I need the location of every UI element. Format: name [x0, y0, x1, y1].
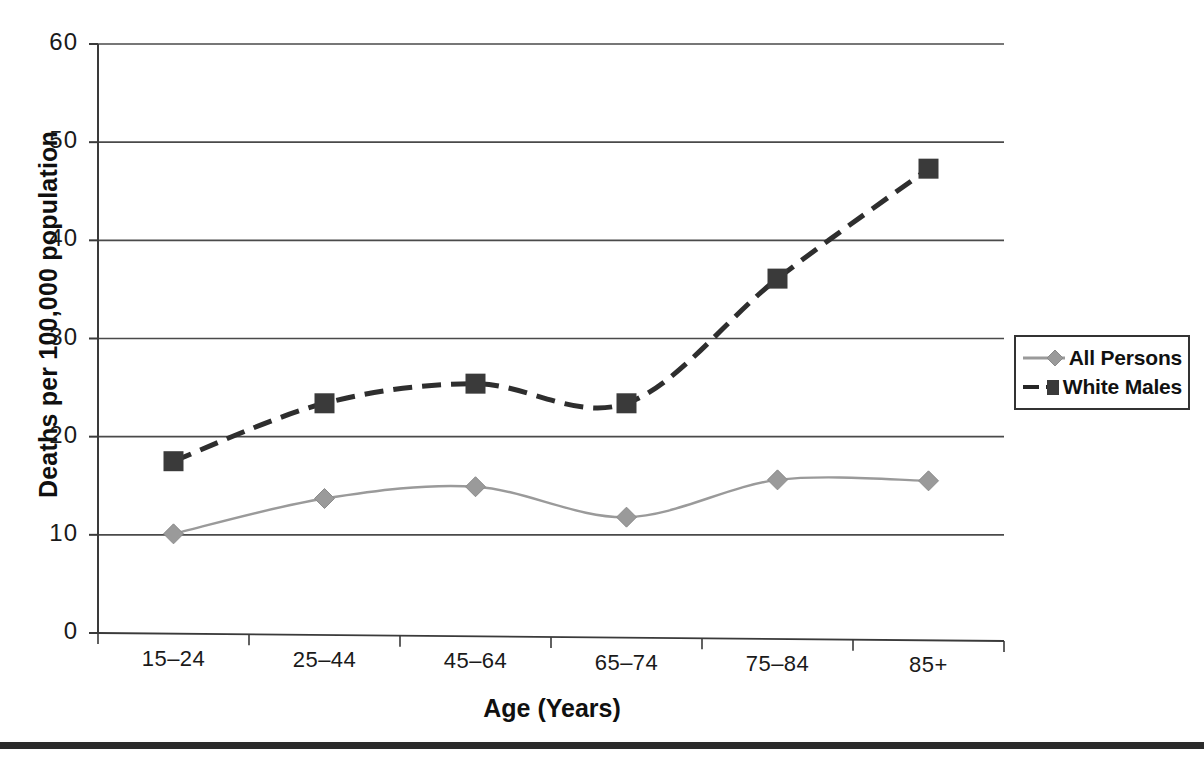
data-point-marker — [617, 507, 637, 527]
x-tick-label: 15–24 — [104, 646, 244, 672]
x-axis-title: Age (Years) — [98, 694, 1006, 723]
x-tick-label: 65–74 — [557, 650, 697, 676]
data-point-marker — [466, 374, 486, 394]
data-point-marker — [164, 451, 184, 471]
chart-page: Deaths per 100,000 population 0102030405… — [0, 0, 1204, 770]
gridlines — [98, 44, 1004, 535]
x-tick-label: 75–84 — [708, 651, 848, 677]
data-point-marker — [315, 489, 335, 509]
legend-swatch-white-males — [1022, 376, 1059, 398]
data-point-marker — [315, 393, 335, 413]
bottom-divider — [0, 742, 1204, 749]
legend-swatch-all-persons — [1022, 347, 1065, 369]
axis-lines — [89, 44, 1004, 652]
legend-label-white-males: White Males — [1063, 375, 1182, 399]
x-tick-label: 25–44 — [255, 647, 395, 673]
data-point-marker — [466, 477, 486, 497]
x-tick-label: 45–64 — [406, 648, 546, 674]
series-line-all-persons — [174, 477, 929, 533]
series-line-white-males — [174, 169, 929, 462]
data-point-marker — [919, 471, 939, 491]
data-point-marker — [768, 470, 788, 490]
data-point-marker — [768, 269, 788, 289]
x-tick-label: 85+ — [859, 652, 999, 678]
chart-legend: All Persons White Males — [1014, 335, 1190, 410]
legend-item-all-persons: All Persons — [1022, 343, 1182, 372]
series-layer — [164, 159, 939, 544]
data-point-marker — [164, 524, 184, 544]
data-point-marker — [617, 393, 637, 413]
legend-label-all-persons: All Persons — [1069, 346, 1182, 370]
legend-item-white-males: White Males — [1022, 372, 1182, 401]
data-point-marker — [919, 159, 939, 179]
